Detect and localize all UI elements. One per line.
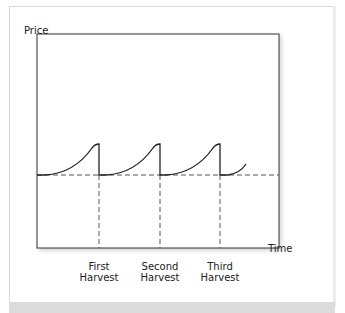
second-harvest-line2: Harvest xyxy=(130,272,190,283)
second-harvest-label: Second Harvest xyxy=(130,261,190,283)
first-harvest-line1: First xyxy=(69,261,129,272)
first-harvest-label: First Harvest xyxy=(69,261,129,283)
x-axis-label: Time xyxy=(268,243,292,254)
third-harvest-label: Third Harvest xyxy=(190,261,250,283)
second-harvest-line1: Second xyxy=(130,261,190,272)
third-harvest-line1: Third xyxy=(190,261,250,272)
plot-area xyxy=(37,34,279,248)
third-harvest-line2: Harvest xyxy=(190,272,250,283)
first-harvest-line2: Harvest xyxy=(69,272,129,283)
y-axis-label: Price xyxy=(24,25,48,36)
